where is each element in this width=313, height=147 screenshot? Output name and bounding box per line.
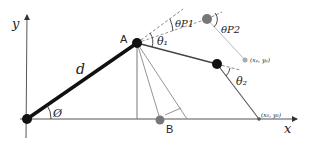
x-axis-label: x (284, 121, 292, 136)
angle-arc-theta1 (150, 33, 153, 47)
link-length-label: d (76, 61, 85, 77)
target-label: (xₚ, yₚ) (250, 56, 271, 64)
thetaP1-label: θP1 (175, 18, 194, 29)
angle-arc-thetaP1 (170, 19, 173, 31)
base-angle-label: Ø (52, 107, 63, 120)
end-point-label: (x₀, y₀) (261, 111, 282, 119)
link-3 (217, 64, 259, 119)
y-axis-label: y (11, 16, 20, 31)
angle-arc-phi (47, 105, 51, 119)
link-d (27, 43, 137, 119)
thetaP2-label: θP2 (221, 24, 240, 35)
origin-joint (22, 114, 32, 124)
ghost-link-1 (137, 19, 207, 43)
ghost-joint-P (202, 14, 212, 24)
point-A-label: A (120, 33, 128, 45)
angle-arc-theta2 (226, 68, 230, 76)
perpendicular-tick (165, 108, 181, 115)
robot-arm-diagram: y x A B d Ø θ₁ θ₂ θP1 θP2 (xₚ, yₚ) (x₀, … (0, 0, 313, 147)
theta2-label: θ₂ (236, 75, 247, 88)
target-point (243, 58, 248, 63)
angle-arc-thetaP2 (214, 13, 217, 27)
point-B-label: B (166, 123, 173, 135)
joint-A (132, 38, 142, 48)
joint-B (156, 116, 165, 125)
joint-2 (212, 59, 222, 69)
fan-line-1 (137, 43, 160, 119)
theta1-label: θ₁ (157, 35, 168, 48)
